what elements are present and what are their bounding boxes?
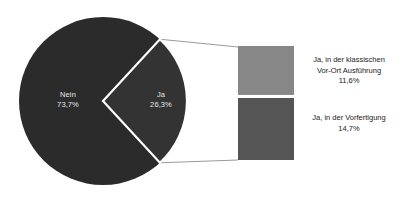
bar-segment-divider xyxy=(238,95,294,98)
bar-caption-klassisch-line1: Ja, in der klassischen xyxy=(299,55,399,66)
bar-caption-klassisch-value: 11,6% xyxy=(299,76,399,87)
connector-line-bottom xyxy=(160,160,238,163)
bar-caption-vorfertigung: Ja, in der Vorfertigung 14,7% xyxy=(299,113,399,134)
connector-line-top xyxy=(160,39,238,47)
bar-segment-klassisch[interactable] xyxy=(238,46,294,95)
bar-caption-klassisch: Ja, in der klassischen Vor-Ort Ausführun… xyxy=(299,55,399,87)
breakout-bar-group xyxy=(238,46,294,160)
bar-caption-klassisch-line2: Vor-Ort Ausführung xyxy=(299,66,399,77)
chart-canvas xyxy=(0,0,402,200)
pie-group xyxy=(19,17,187,185)
pie-chart-figure: Nein 73,7% Ja 26,3% Ja, in der klassisch… xyxy=(0,0,402,200)
bar-caption-vorfertigung-value: 14,7% xyxy=(299,124,399,135)
bar-segment-vorfertigung[interactable] xyxy=(238,98,294,160)
bar-caption-vorfertigung-line1: Ja, in der Vorfertigung xyxy=(299,113,399,124)
